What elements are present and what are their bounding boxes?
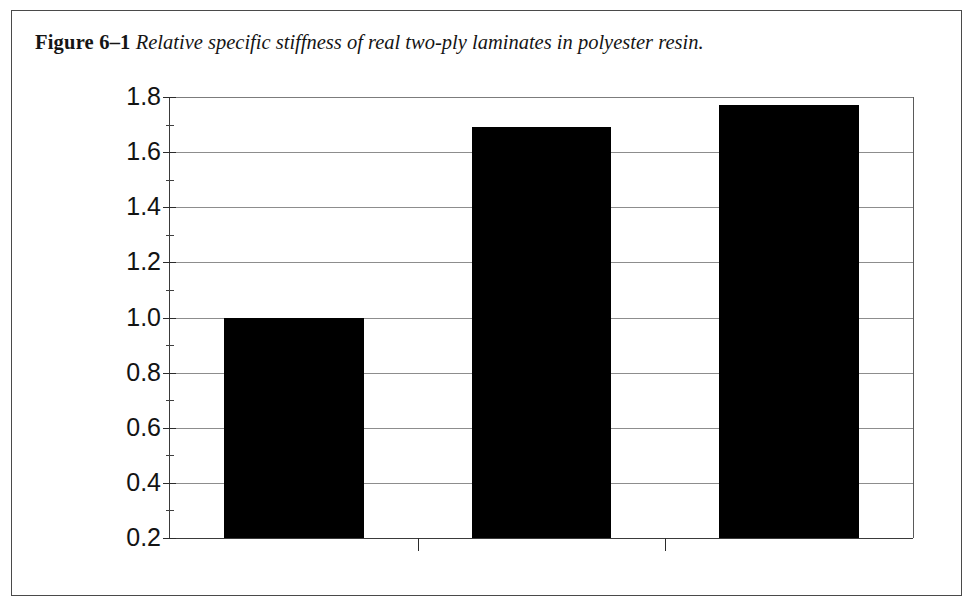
y-axis-tick-major (163, 373, 176, 374)
bar-aramid (472, 127, 612, 538)
y-axis-tick-major (163, 538, 176, 539)
plot-area: 1.81.61.41.21.00.80.60.40.2CSMAramidCarb… (169, 97, 914, 538)
y-axis-tick-label: 1.2 (41, 249, 161, 274)
y-axis-tick-minor (166, 455, 174, 456)
y-axis-tick-major (163, 97, 176, 98)
gridline (170, 97, 913, 98)
bar-chart: Relative specific stiffness, CSM = 1 1.8… (12, 11, 963, 597)
y-axis-tick-major (163, 152, 176, 153)
x-axis-tick (665, 538, 666, 551)
x-axis-tick (418, 538, 419, 551)
y-axis-tick-minor (166, 400, 174, 401)
y-axis-tick-minor (166, 290, 174, 291)
y-axis-tick-major (163, 262, 176, 263)
y-axis-tick-major (163, 483, 176, 484)
y-axis-tick-label: 1.4 (41, 194, 161, 219)
y-axis-title-text: Relative specific stiffness, CSM = 1 (9, 0, 38, 11)
y-axis-tick-label: 1.0 (41, 305, 161, 330)
y-axis-tick-label: 1.8 (41, 84, 161, 109)
y-axis-tick-label: 1.6 (41, 139, 161, 164)
y-axis-tick-major (163, 207, 176, 208)
y-axis-title: Relative specific stiffness, CSM = 1 (9, 0, 49, 11)
figure-frame: Figure 6–1 Relative specific stiffness o… (11, 10, 962, 596)
y-axis-tick-minor (166, 345, 174, 346)
y-axis-tick-label: 0.4 (41, 470, 161, 495)
y-axis-tick-minor (166, 125, 174, 126)
y-axis-tick-minor (166, 180, 174, 181)
y-axis-tick-minor (166, 510, 174, 511)
y-axis-tick-major (163, 318, 176, 319)
bar-csm (224, 318, 364, 539)
y-axis-tick-label: 0.8 (41, 360, 161, 385)
y-axis-tick-label: 0.6 (41, 415, 161, 440)
y-axis-tick-minor (166, 235, 174, 236)
y-axis-tick-major (163, 428, 176, 429)
y-axis-tick-label: 0.2 (41, 525, 161, 550)
bar-carbon (719, 105, 859, 538)
gridline (170, 538, 913, 539)
